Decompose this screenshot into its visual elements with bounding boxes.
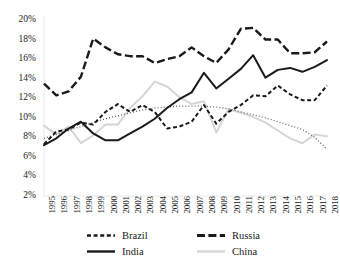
x-axis-tick-label: 2011 (245, 196, 254, 213)
legend-item-russia[interactable]: Russia (196, 229, 260, 242)
x-axis-tick-label: 1995 (48, 196, 57, 214)
legend-key-china-icon (196, 246, 226, 257)
legend-label: China (232, 246, 257, 257)
y-axis-tick-label: 12% (2, 93, 36, 103)
x-axis-tick-label: 1999 (97, 196, 106, 214)
legend-label: Russia (232, 230, 260, 241)
x-axis-tick-label: 2017 (319, 196, 328, 214)
x-axis-tick-label: 1996 (60, 196, 69, 214)
y-axis-tick-label: 14% (2, 74, 36, 84)
y-axis-tick-label: 10% (2, 113, 36, 123)
y-axis-tick-label: 18% (2, 35, 36, 45)
x-axis-tick-label: 1998 (85, 196, 94, 214)
x-axis-tick-label: 2015 (294, 196, 303, 214)
legend-item-india[interactable]: India (86, 245, 144, 258)
x-axis-tick-label: 2002 (134, 196, 143, 214)
x-axis-tick-label: 2003 (146, 196, 155, 214)
x-axis-tick-label: 2006 (183, 196, 192, 214)
legend-key-india-icon (86, 246, 116, 257)
x-axis-tick-label: 2004 (159, 196, 168, 214)
x-axis-tick-label: 2000 (110, 196, 119, 214)
y-axis-tick-label: 4% (2, 171, 36, 181)
x-axis-tick-label: 2013 (269, 196, 278, 214)
x-axis-tick-label: 2001 (122, 196, 131, 214)
y-axis-tick-label: 20% (2, 15, 36, 25)
x-axis-tick-label: 2009 (220, 196, 229, 214)
legend-item-china[interactable]: China (196, 245, 257, 258)
series-line-russia (44, 28, 327, 95)
plot-area (0, 0, 333, 205)
x-axis-tick-label: 2005 (171, 196, 180, 214)
chart-canvas (0, 0, 333, 205)
x-axis-tick-label: 2010 (233, 196, 242, 214)
legend-key-russia-icon (196, 230, 226, 241)
y-axis-tick-label: 8% (2, 132, 36, 142)
legend-label: India (122, 246, 144, 257)
chart-legend: BrazilRussiaIndiaChina (0, 228, 333, 263)
x-axis-tick-label: 2018 (331, 196, 340, 214)
x-axis-tick-label: 1997 (73, 196, 82, 214)
x-axis-tick-label: 2014 (282, 196, 291, 214)
legend-key-brazil-icon (86, 230, 116, 241)
y-axis-tick-label: 16% (2, 54, 36, 64)
y-axis-tick-label: 6% (2, 152, 36, 162)
x-axis-tick-label: 2008 (208, 196, 217, 214)
legend-item-brazil[interactable]: Brazil (86, 229, 148, 242)
x-axis-tick-label: 2016 (306, 196, 315, 214)
x-axis-tick-label: 2012 (257, 196, 266, 214)
legend-label: Brazil (122, 230, 148, 241)
x-axis-tick-label: 2007 (196, 196, 205, 214)
